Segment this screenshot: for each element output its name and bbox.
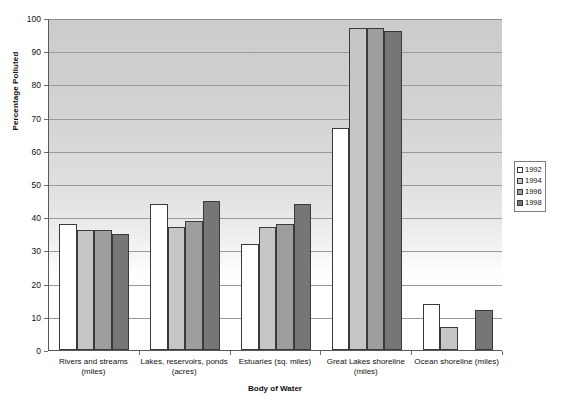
- bar: [276, 224, 294, 350]
- bar: [94, 230, 112, 350]
- y-axis-tick-label: 60: [32, 148, 41, 156]
- bar: [241, 244, 259, 350]
- bar: [112, 234, 130, 350]
- bar-chart: Percentage Polluted 01020304050607080901…: [0, 0, 570, 409]
- legend-item[interactable]: 1996: [517, 187, 542, 197]
- bar-group: [241, 19, 311, 350]
- x-axis-title: Body of Water: [48, 384, 502, 393]
- y-axis-tick-label: 50: [32, 181, 41, 189]
- bar: [367, 28, 385, 350]
- legend-item[interactable]: 1994: [517, 176, 542, 186]
- y-axis-tick-labels: 0102030405060708090100: [0, 0, 47, 409]
- bar: [203, 201, 221, 350]
- x-axis-category-label-line: (acres): [131, 367, 238, 377]
- bar: [384, 31, 402, 350]
- legend-label: 1998: [525, 199, 542, 207]
- bar: [440, 327, 458, 350]
- x-axis-tick-mark: [320, 351, 321, 355]
- bar-group: [423, 19, 493, 350]
- bar-group: [59, 19, 129, 350]
- plot-area: [48, 19, 502, 351]
- x-axis-category-label: Ocean shoreline (miles): [403, 357, 510, 367]
- x-axis-category-labels: Rivers and streams(miles)Lakes, reservoi…: [48, 357, 502, 387]
- y-axis-tick-label: 100: [27, 15, 41, 23]
- bar: [185, 221, 203, 350]
- y-axis-tick-label: 20: [32, 281, 41, 289]
- bar: [423, 304, 441, 350]
- bar: [475, 310, 493, 350]
- legend-swatch-icon: [517, 200, 523, 206]
- bar: [77, 230, 95, 350]
- legend-swatch-icon: [517, 178, 523, 184]
- bar: [349, 28, 367, 350]
- bar: [259, 227, 277, 350]
- bar-group: [332, 19, 402, 350]
- legend-swatch-icon: [517, 189, 523, 195]
- y-axis-tick-label: 80: [32, 81, 41, 89]
- x-axis-category-label-line: Ocean shoreline (miles): [403, 357, 510, 367]
- bar: [294, 204, 312, 350]
- bar: [150, 204, 168, 350]
- y-axis-tick-label: 40: [32, 214, 41, 222]
- x-axis-tick-mark: [411, 351, 412, 355]
- y-axis-tick-label: 90: [32, 48, 41, 56]
- legend-label: 1996: [525, 188, 542, 196]
- bar: [332, 128, 350, 350]
- x-axis-tick-mark: [139, 351, 140, 355]
- bar: [59, 224, 77, 350]
- x-axis-tick-mark: [502, 351, 503, 355]
- x-axis-tick-mark: [230, 351, 231, 355]
- y-axis-tick-label: 30: [32, 247, 41, 255]
- legend-label: 1992: [525, 166, 542, 174]
- legend-swatch-icon: [517, 167, 523, 173]
- y-axis-tick-mark: [44, 351, 48, 352]
- bars-layer: [49, 19, 502, 350]
- legend-item[interactable]: 1992: [517, 165, 542, 175]
- legend-item[interactable]: 1998: [517, 198, 542, 208]
- y-axis-tick-label: 0: [36, 347, 41, 355]
- y-axis-tick-label: 10: [32, 314, 41, 322]
- bar: [168, 227, 186, 350]
- bar-group: [150, 19, 220, 350]
- y-axis-tick-label: 70: [32, 115, 41, 123]
- legend-label: 1994: [525, 177, 542, 185]
- x-axis-category-label-line: (miles): [312, 367, 419, 377]
- legend: 1992199419961998: [514, 161, 546, 212]
